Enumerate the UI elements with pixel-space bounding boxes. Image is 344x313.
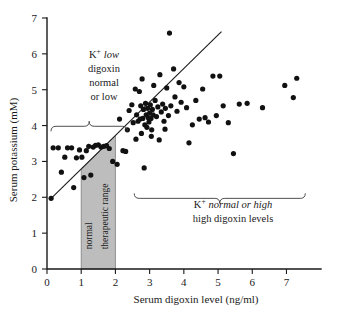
x-tick-label: 3 — [147, 276, 153, 288]
data-point — [160, 101, 165, 106]
data-point — [193, 98, 198, 103]
data-point — [206, 119, 211, 124]
data-point — [291, 95, 296, 100]
data-point — [166, 113, 171, 118]
data-point — [140, 76, 145, 81]
data-point — [149, 134, 154, 139]
chart-figure: normal therapeutic range 01234567 012345… — [0, 0, 344, 313]
data-point — [168, 103, 173, 108]
data-point — [143, 101, 148, 106]
data-point — [157, 137, 162, 142]
y-tick-label: 5 — [32, 84, 38, 96]
data-point — [184, 105, 189, 110]
data-point — [186, 140, 191, 145]
data-point — [134, 112, 139, 117]
data-point — [71, 185, 76, 190]
data-point — [172, 94, 177, 99]
data-point — [231, 151, 236, 156]
data-point — [107, 146, 112, 151]
data-point — [49, 196, 54, 201]
left-annot-line2: digoxin — [88, 63, 121, 74]
data-point — [86, 144, 91, 149]
data-point — [127, 108, 132, 113]
data-point — [245, 101, 250, 106]
data-point — [88, 172, 93, 177]
shade-label-line1: normal — [84, 222, 94, 249]
data-point — [163, 106, 168, 111]
data-point — [69, 145, 74, 150]
data-point — [51, 145, 56, 150]
data-point — [217, 73, 222, 78]
right-annot-italic: normal or high — [209, 199, 273, 210]
data-point — [282, 83, 287, 88]
data-point — [59, 170, 64, 175]
x-axis-ticks: 01234567 — [44, 269, 289, 288]
data-point — [214, 113, 219, 118]
x-tick-label: 0 — [44, 276, 50, 288]
data-point — [159, 109, 164, 114]
data-point — [155, 104, 160, 109]
data-point — [56, 145, 61, 150]
data-point — [294, 76, 299, 81]
left-annot-line4: or low — [90, 91, 118, 102]
y-tick-label: 6 — [32, 48, 38, 60]
therapeutic-range-region: normal therapeutic range — [81, 136, 115, 269]
data-point — [123, 149, 128, 154]
left-annot-sup: + — [97, 47, 101, 56]
y-tick-label: 1 — [32, 227, 38, 239]
left-brace-annotation: K+low digoxin normal or low — [51, 47, 127, 132]
data-point — [144, 125, 149, 130]
x-tick-label: 5 — [215, 276, 221, 288]
data-point — [131, 120, 136, 125]
left-brace-icon — [51, 121, 127, 131]
data-point — [79, 155, 84, 160]
right-annot-line2: high digoxin levels — [193, 213, 274, 224]
data-point — [200, 86, 205, 91]
x-tick-label: 6 — [250, 276, 256, 288]
data-point — [179, 100, 184, 105]
data-point — [137, 89, 142, 94]
data-point — [139, 131, 144, 136]
data-point — [260, 105, 265, 110]
right-brace-annotation: K+normal or high high digoxin levels — [134, 193, 305, 224]
data-point — [164, 85, 169, 90]
data-point — [133, 137, 138, 142]
data-point — [174, 109, 179, 114]
data-point — [176, 80, 181, 85]
left-annot-line3: normal — [89, 77, 119, 88]
data-point — [149, 127, 154, 132]
right-annot-line1: K+normal or high — [194, 197, 272, 211]
data-point — [81, 175, 86, 180]
data-point — [197, 117, 202, 122]
data-point — [77, 147, 82, 152]
x-tick-label: 2 — [113, 276, 119, 288]
data-point — [115, 162, 120, 167]
data-point — [157, 72, 162, 77]
data-point — [171, 66, 176, 71]
data-point — [150, 107, 155, 112]
data-point — [153, 98, 158, 103]
axes: 01234567 01234567 — [32, 12, 322, 288]
data-point — [74, 155, 79, 160]
data-point — [161, 119, 166, 124]
data-point — [210, 73, 215, 78]
y-tick-label: 4 — [32, 120, 38, 132]
y-tick-label: 0 — [32, 263, 38, 275]
data-point — [110, 159, 115, 164]
data-point — [181, 84, 186, 89]
y-tick-label: 7 — [32, 12, 38, 24]
y-tick-label: 3 — [32, 155, 38, 167]
y-axis-ticks: 01234567 — [32, 12, 48, 275]
y-axis-title: Serum potassium (mM) — [7, 97, 20, 202]
y-tick-label: 2 — [32, 191, 38, 203]
x-axis-title: Serum digoxin level (ng/ml) — [134, 293, 259, 306]
data-point — [62, 155, 67, 160]
data-point — [237, 101, 242, 106]
left-annot-italic: low — [104, 49, 119, 60]
shade-label-line2: therapeutic range — [100, 184, 110, 250]
data-point — [221, 103, 226, 108]
data-point — [202, 115, 207, 120]
data-point — [148, 102, 153, 107]
data-point — [151, 83, 156, 88]
data-point — [129, 102, 134, 107]
